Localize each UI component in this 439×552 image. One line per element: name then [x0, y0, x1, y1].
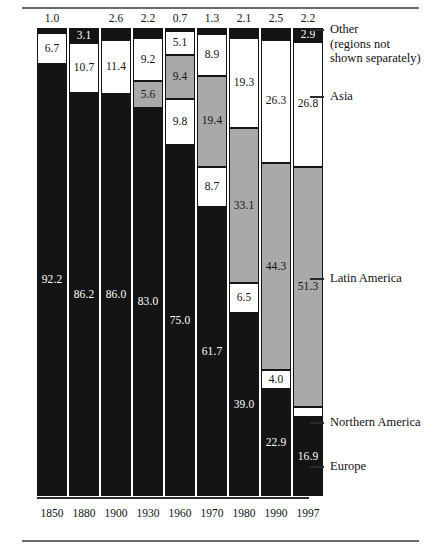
bar-1930: 2.29.25.683.0 — [133, 28, 163, 496]
bar-1990-value-europe: 22.9 — [266, 437, 287, 449]
bar-1980-value-northern-america: 6.5 — [237, 292, 252, 304]
bar-1850: 1.06.792.2 — [37, 28, 67, 496]
bar-1990-value-asia: 26.3 — [266, 95, 287, 107]
bar-1997-value-europe: 16.9 — [298, 451, 319, 463]
bar-1990-value-latin-america: 44.3 — [266, 261, 287, 273]
callout-leader-asia — [310, 96, 324, 98]
bar-1960-segment-asia: 5.1 — [165, 31, 195, 55]
bar-1997-segment-northern-america: 2.2 — [293, 407, 323, 417]
bar-1960-segment-latin-america: 9.4 — [165, 55, 195, 99]
bar-1880-value-other: 3.1 — [77, 30, 92, 42]
bar-1900-value-europe: 86.0 — [106, 289, 127, 301]
bar-1980-segment-latin-america: 33.1 — [229, 128, 259, 283]
bar-1900-segment-europe: 86.0 — [101, 94, 131, 496]
bar-1990-segment-europe: 22.9 — [261, 389, 291, 496]
bar-1930-segment-asia: 9.2 — [133, 38, 163, 81]
bar-1970-segment-europe: 61.7 — [197, 207, 227, 496]
callout-other-line1: Other — [330, 22, 421, 37]
callout-asia-text: Asia — [330, 89, 353, 104]
bar-1980-segment-other: 2.1 — [229, 28, 259, 38]
bar-1850-value-other-external: 1.0 — [32, 13, 72, 25]
callout-europe-text: Europe — [330, 459, 366, 474]
bar-1980-value-europe: 39.0 — [234, 399, 255, 411]
bar-1990: 2.526.344.34.022.9 — [261, 28, 291, 496]
bar-1960-value-northern-america: 9.8 — [173, 116, 188, 128]
bar-1990-value-northern-america: 4.0 — [269, 374, 284, 386]
bar-1997-value-latin-america: 51.3 — [298, 281, 319, 293]
bar-1980: 2.119.333.16.539.0 — [229, 28, 259, 496]
bar-1990-segment-latin-america: 44.3 — [261, 163, 291, 370]
bar-1970-segment-latin-america: 19.4 — [197, 76, 227, 167]
callout-leader-northern-america — [310, 422, 324, 424]
bar-1900-segment-other: 2.6 — [101, 28, 131, 40]
callout-other-text: Other (regions not shown separately) — [330, 22, 421, 66]
bar-1960-value-latin-america: 9.4 — [173, 71, 188, 83]
bar-1997-value-northern-america-external: 2.2 — [288, 13, 328, 25]
bar-1900: 2.611.486.0 — [101, 28, 131, 496]
bar-1880-segment-other: 3.1 — [69, 28, 99, 43]
bar-1930-value-asia: 9.2 — [141, 54, 156, 66]
callout-leader-europe — [310, 466, 324, 468]
callout-other-line2: (regions not — [330, 37, 421, 52]
bar-1980-segment-northern-america: 6.5 — [229, 283, 259, 313]
callout-leader-latin-america — [310, 278, 324, 280]
callout-latin-america-text: Latin America — [330, 271, 402, 286]
bar-1970-value-europe: 61.7 — [202, 346, 223, 358]
bar-1880-value-europe: 86.2 — [74, 289, 95, 301]
x-axis-line — [37, 497, 309, 499]
bar-1850-segment-asia: 6.7 — [37, 33, 67, 64]
bar-1960: 0.75.19.49.875.0 — [165, 28, 195, 496]
bar-1997-value-other: 2.9 — [301, 29, 316, 41]
bar-1880-value-asia: 10.7 — [74, 62, 95, 74]
bar-1850-value-asia: 6.7 — [45, 43, 60, 55]
bar-1990-segment-asia: 26.3 — [261, 40, 291, 163]
callout-northern-america-text: Northern America — [330, 415, 421, 430]
bar-1997-value-asia: 26.8 — [298, 98, 319, 110]
bar-1970-value-asia: 8.9 — [205, 49, 220, 61]
bar-1997-segment-latin-america: 51.3 — [293, 167, 323, 407]
bar-1970-segment-asia: 8.9 — [197, 34, 227, 76]
bar-1970-segment-northern-america: 8.7 — [197, 167, 227, 208]
bar-1997-segment-asia: 26.8 — [293, 42, 323, 167]
callout-leader-other — [310, 29, 324, 31]
bar-1930-segment-other: 2.2 — [133, 28, 163, 38]
bar-1970-value-northern-america: 8.7 — [205, 181, 220, 193]
bar-1980-value-latin-america: 33.1 — [234, 200, 255, 212]
bar-1960-value-europe: 75.0 — [170, 315, 191, 327]
bar-1850-segment-europe: 92.2 — [37, 64, 67, 495]
bar-1930-value-latin-america: 5.6 — [141, 89, 156, 101]
bar-1900-value-asia: 11.4 — [106, 61, 126, 73]
bar-1980-segment-europe: 39.0 — [229, 313, 259, 496]
bar-1930-segment-latin-america: 5.6 — [133, 81, 163, 107]
bar-1970-value-latin-america: 19.4 — [202, 115, 223, 127]
bar-1900-segment-asia: 11.4 — [101, 40, 131, 93]
callout-other-line3: shown separately) — [330, 51, 421, 66]
bar-1980-value-asia: 19.3 — [234, 77, 255, 89]
bar-1990-segment-northern-america: 4.0 — [261, 370, 291, 389]
bar-1960-segment-northern-america: 9.8 — [165, 99, 195, 145]
bar-1850-value-europe: 92.2 — [42, 274, 63, 286]
bar-1880-segment-asia: 10.7 — [69, 43, 99, 93]
bar-1930-segment-europe: 83.0 — [133, 108, 163, 496]
bar-1960-value-asia: 5.1 — [173, 37, 188, 49]
bar-1970: 1.38.919.48.761.7 — [197, 28, 227, 496]
bar-1980-segment-asia: 19.3 — [229, 38, 259, 128]
bar-1930-value-europe: 83.0 — [138, 296, 159, 308]
bar-1997-segment-europe: 16.9 — [293, 417, 323, 496]
x-tick-1997: 1997 — [288, 507, 328, 519]
bar-1880-segment-europe: 86.2 — [69, 93, 99, 496]
bar-1880: 3.110.786.2 — [69, 28, 99, 496]
bar-1960-segment-europe: 75.0 — [165, 145, 195, 496]
bar-1990-segment-other: 2.5 — [261, 28, 291, 40]
bar-1997: 2.926.851.32.216.9 — [293, 28, 323, 496]
